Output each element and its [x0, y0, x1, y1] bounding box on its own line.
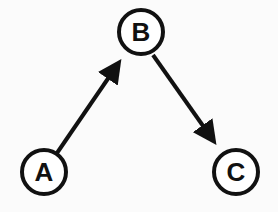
diagram-canvas: A B C [0, 0, 278, 212]
node-c: C [214, 150, 258, 194]
node-c-label: C [227, 157, 246, 187]
node-b-label: B [132, 17, 151, 47]
edge-a-to-b [57, 64, 118, 153]
node-b: B [119, 10, 163, 54]
node-a: A [22, 150, 66, 194]
edge-b-to-c [153, 55, 213, 140]
node-a-label: A [35, 157, 54, 187]
graph-svg: A B C [0, 0, 278, 212]
